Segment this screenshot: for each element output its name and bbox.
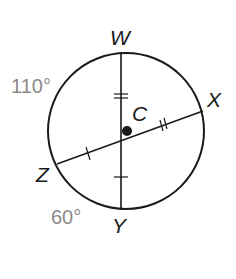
arc-measure-ZY: 60° <box>51 206 81 228</box>
label-Z: Z <box>35 163 50 186</box>
label-C: C <box>132 102 148 125</box>
label-W: W <box>110 26 132 49</box>
label-Y: Y <box>112 214 128 237</box>
label-X: X <box>206 88 222 111</box>
arc-measure-WZ: 110° <box>11 75 51 97</box>
chord-ZX <box>57 111 203 164</box>
circle-diagram: W X Y Z C 110° 60° <box>0 0 236 279</box>
center-point <box>122 126 132 136</box>
